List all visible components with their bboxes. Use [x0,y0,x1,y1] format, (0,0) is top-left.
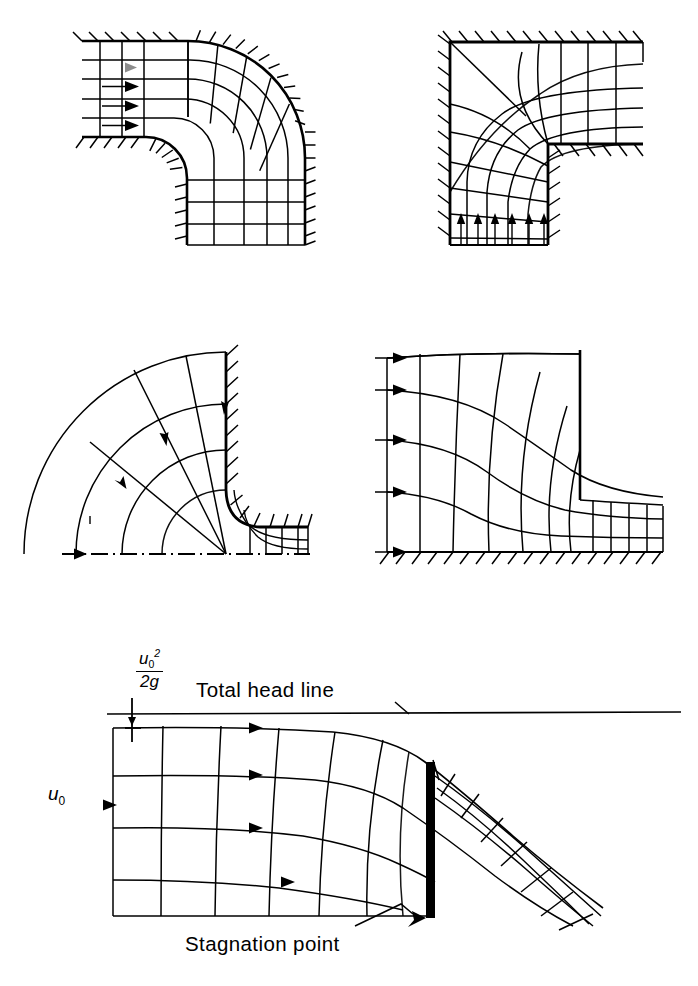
radial-inflow-flownet [60,342,310,562]
pipe-wall [226,352,308,527]
hatch-left [438,35,450,236]
weir-flownet [103,668,683,928]
velocity-head-label: u02 2g [136,648,163,690]
velocity-head-denominator: 2g [136,671,163,690]
hatch-top [443,31,642,42]
inlet-arrows [125,63,139,132]
inlet-arrows [393,353,407,558]
inner-wall [548,144,643,245]
total-head-line-label: Total head line [196,678,334,702]
nappe-inner-streamline [435,798,593,926]
stagnation-point-label: Stagnation point [185,932,340,956]
equipotentials [161,726,595,930]
inlet-arrow-shafts [375,358,395,552]
inlet-arrow-shafts [461,224,544,244]
panel-sharp-crested-weir [103,668,683,928]
equipotentials [90,346,308,554]
sluice-gate-flownet [375,342,665,567]
streamlines [82,60,288,245]
panel-radial-inflow-outlet [60,342,310,562]
hatch-floor [380,552,661,564]
weir-plate [426,762,435,918]
panel-rounded-bend [78,32,308,252]
equipotentials [420,354,663,552]
streamlines [24,352,226,554]
inlet-arrow-shafts [102,87,127,126]
hatch-pipe [226,345,312,527]
hatch-outer-top [73,32,178,41]
hatch-inner-vertical [548,150,560,238]
panel-sharp-bend [430,32,645,252]
flow-arrows [103,723,295,888]
flow-arrows [74,401,229,560]
nappe-lower-surface [435,776,601,916]
streamlines-outlet [234,482,308,554]
hatch-inner-left [175,184,187,239]
velocity-head-arrowheads [128,716,136,726]
total-head-line [107,712,681,714]
approach-velocity-label: u0 [48,783,65,808]
equipotentials [100,41,305,245]
panel-sluice-gate [375,342,665,567]
hatch-outer-right [305,167,316,245]
inner-wall [82,137,187,245]
sharp-bend-flownet [430,32,645,252]
velocity-head-numerator: u02 [136,648,163,671]
stagnation-arrowhead [408,911,426,927]
hatch-inner-top [76,137,139,148]
rounded-bend-flownet [78,32,308,252]
corner-diagonal [450,42,526,116]
stagnation-leader [355,904,413,926]
hatch-inner-horizontal [554,144,643,156]
